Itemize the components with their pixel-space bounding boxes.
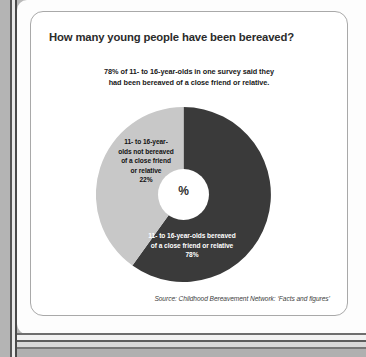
pie-label-bereaved-line-2: of a close friend or relative: [114, 241, 270, 251]
chart-subtitle: 78% of 11- to 16-year-olds in one survey…: [31, 66, 347, 88]
pie-label-bereaved-line-1: 11- to 16-year-olds bereaved: [114, 231, 270, 241]
pie-label-bereaved-value: 78%: [114, 250, 270, 260]
page-edge-band-6: [17, 349, 366, 357]
chart-subtitle-line-2: had been bereaved of a close friend or r…: [31, 77, 347, 88]
chart-subtitle-line-1: 78% of 11- to 16-year-olds in one survey…: [31, 66, 347, 77]
infographic-card: How many young people have been bereaved…: [30, 11, 348, 316]
pie-label-not-bereaved-line-1: 11- to 16-year-: [104, 137, 188, 147]
pie-label-not-bereaved: 11- to 16-year- olds not bereaved of a c…: [104, 137, 188, 185]
source-attribution: Source: Childhood Bereavement Network: ‘…: [154, 295, 330, 302]
pie-label-not-bereaved-line-3: of a close friend: [104, 156, 188, 166]
scanned-page-background: How many young people have been bereaved…: [0, 0, 366, 357]
pie-center-percent-symbol: %: [96, 184, 271, 198]
page-title: How many young people have been bereaved…: [49, 31, 294, 43]
pie-label-bereaved: 11- to 16-year-olds bereaved of a close …: [114, 231, 270, 260]
pie-label-not-bereaved-line-4: or relative: [104, 166, 188, 176]
pie-label-not-bereaved-line-2: olds not bereaved: [104, 147, 188, 157]
pie-chart: 11- to 16-year- olds not bereaved of a c…: [96, 107, 271, 282]
page-gutter-outer: [0, 0, 10, 357]
